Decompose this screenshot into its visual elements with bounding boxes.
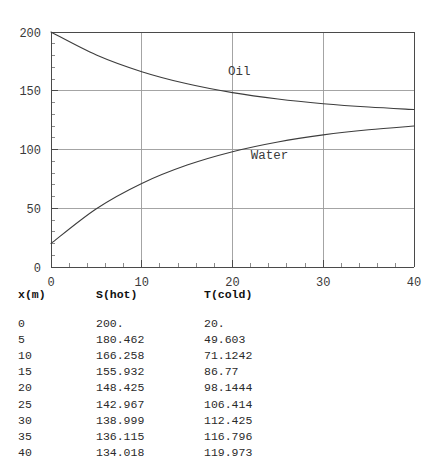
- y-axis-tick-label: 50: [27, 203, 41, 217]
- table-row: 25142.967106.414: [18, 396, 324, 412]
- cell-s-hot: 134.018: [96, 445, 204, 461]
- column-header-s-hot: S(hot): [96, 288, 204, 315]
- cell-t-cold: 119.973: [204, 445, 324, 461]
- cell-s-hot: 136.115: [96, 428, 204, 444]
- cell-x: 20: [18, 380, 96, 396]
- cell-t-cold: 116.796: [204, 428, 324, 444]
- cell-t-cold: 106.414: [204, 396, 324, 412]
- plot-area: 050100150200010203040OilWater: [0, 8, 433, 293]
- temperature-profile-chart: 050100150200010203040OilWater: [0, 8, 433, 293]
- cell-s-hot: 138.999: [96, 412, 204, 428]
- cell-t-cold: 49.603: [204, 331, 324, 347]
- cell-t-cold: 112.425: [204, 412, 324, 428]
- cell-s-hot: 200.: [96, 315, 204, 331]
- cell-s-hot: 180.462: [96, 331, 204, 347]
- cell-s-hot: 166.258: [96, 347, 204, 363]
- cell-x: 5: [18, 331, 96, 347]
- cell-x: 35: [18, 428, 96, 444]
- table-row: 15155.93286.77: [18, 364, 324, 380]
- column-header-x: x(m): [18, 288, 96, 315]
- table-row: 35136.115116.796: [18, 428, 324, 444]
- cell-t-cold: 98.1444: [204, 380, 324, 396]
- curve-label-water: Water: [251, 149, 289, 163]
- y-axis-tick-label: 100: [19, 144, 41, 158]
- cell-s-hot: 155.932: [96, 364, 204, 380]
- cell-t-cold: 20.: [204, 315, 324, 331]
- figure-container: 050100150200010203040OilWater x(m) S(hot…: [0, 0, 433, 474]
- table-row: 10166.25871.1242: [18, 347, 324, 363]
- table-row: 0200.20.: [18, 315, 324, 331]
- cell-t-cold: 71.1242: [204, 347, 324, 363]
- y-axis-tick-label: 200: [19, 27, 41, 41]
- cell-x: 0: [18, 315, 96, 331]
- column-header-t-cold: T(cold): [204, 288, 324, 315]
- table-body: 0200.20.5180.46249.60310166.25871.124215…: [18, 315, 324, 461]
- cell-x: 25: [18, 396, 96, 412]
- cell-x: 40: [18, 445, 96, 461]
- cell-x: 15: [18, 364, 96, 380]
- curve-label-oil: Oil: [228, 65, 251, 79]
- data-table-section: x(m) S(hot) T(cold) 0200.20.5180.46249.6…: [0, 288, 433, 474]
- table-row: 20148.42598.1444: [18, 380, 324, 396]
- cell-x: 30: [18, 412, 96, 428]
- cell-s-hot: 142.967: [96, 396, 204, 412]
- y-axis-tick-label: 0: [34, 262, 41, 276]
- cell-s-hot: 148.425: [96, 380, 204, 396]
- table-header-row: x(m) S(hot) T(cold): [18, 288, 324, 315]
- results-table: x(m) S(hot) T(cold) 0200.20.5180.46249.6…: [18, 288, 324, 461]
- table-row: 5180.46249.603: [18, 331, 324, 347]
- y-axis-tick-label: 150: [19, 85, 41, 99]
- table-row: 40134.018119.973: [18, 445, 324, 461]
- cell-x: 10: [18, 347, 96, 363]
- table-row: 30138.999112.425: [18, 412, 324, 428]
- cell-t-cold: 86.77: [204, 364, 324, 380]
